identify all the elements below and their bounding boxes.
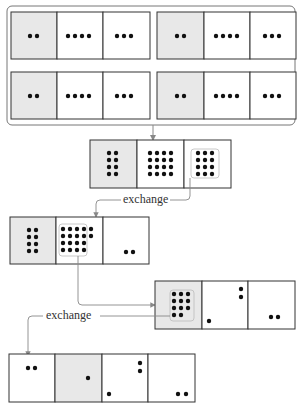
step-3-box: [10, 217, 149, 264]
top-box-2: [157, 12, 296, 59]
exchange-label-1: exchange: [121, 192, 170, 206]
top-box-4: [157, 72, 296, 119]
top-box-1: [11, 12, 150, 59]
top-box-3: [11, 72, 150, 119]
step-2-box: [90, 140, 231, 188]
exchange-label-2: exchange: [44, 308, 93, 322]
step-4-box: [155, 281, 295, 329]
step-5-box: [9, 354, 195, 402]
